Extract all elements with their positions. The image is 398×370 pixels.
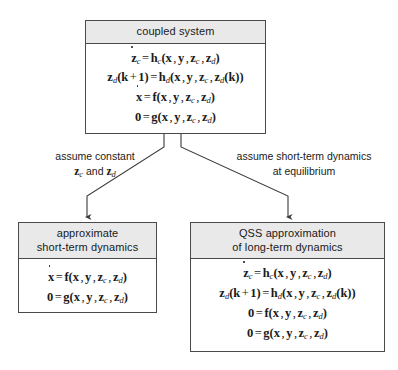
equation-zd-update: zd(k+1)=hd(x,y,zc,zd(k)) [196, 285, 379, 305]
node-qss-approximation-long-term-dynamics-body: zc=hc(x,y,zc,zd) zd(k+1)=hd(x,y,zc,zd(k)… [191, 259, 384, 351]
node-approximate-short-term-dynamics-header: approximate short-term dynamics [19, 223, 156, 259]
header-line-2: short-term dynamics [21, 241, 154, 255]
equation-g-constraint: 0=g(x,y,zc,zd) [24, 289, 151, 309]
left-branch-label-line2: zc and zd [30, 164, 160, 181]
right-branch-label: assume short-term dynamics at equilibriu… [215, 149, 393, 178]
equation-f-constraint: 0=f(x,y,zc,zd) [196, 305, 379, 325]
equation-g-constraint: 0=g(x,y,zc,zd) [91, 109, 260, 129]
header-line-2: of long-term dynamics [193, 241, 382, 255]
left-branch-label-line1: assume constant [30, 149, 160, 164]
node-coupled-system[interactable]: coupled system zc=hc(x,y,zc,zd) zd(k+1)=… [85, 20, 266, 134]
header-line-1: QSS approximation [193, 227, 382, 241]
node-qss-approximation-long-term-dynamics-header: QSS approximation of long-term dynamics [191, 223, 384, 259]
equation-x-dot: x=f(x,y,zc,zd) [24, 269, 151, 289]
node-coupled-system-header: coupled system [86, 21, 265, 44]
diagram-canvas: coupled system zc=hc(x,y,zc,zd) zd(k+1)=… [0, 0, 398, 370]
node-approximate-short-term-dynamics-body: x=f(x,y,zc,zd) 0=g(x,y,zc,zd) [19, 259, 156, 316]
node-approximate-short-term-dynamics[interactable]: approximate short-term dynamics x=f(x,y,… [18, 222, 157, 313]
equation-x-dot: x=f(x,y,zc,zd) [91, 89, 260, 109]
left-branch-label: assume constant zc and zd [30, 149, 160, 181]
node-qss-approximation-long-term-dynamics[interactable]: QSS approximation of long-term dynamics … [190, 222, 385, 352]
equation-zc-dot: zc=hc(x,y,zc,zd) [196, 265, 379, 285]
node-coupled-system-body: zc=hc(x,y,zc,zd) zd(k+1)=hd(x,y,zc,zd(k)… [86, 44, 265, 136]
header-line-1: approximate [21, 227, 154, 241]
right-branch-label-line2: at equilibrium [215, 164, 393, 179]
equation-zd-update: zd(k+1)=hd(x,y,zc,zd(k)) [91, 69, 260, 89]
right-branch-label-line1: assume short-term dynamics [215, 149, 393, 164]
equation-g-constraint: 0=g(x,y,zc,zd) [196, 325, 379, 345]
equation-zc-dot: zc=hc(x,y,zc,zd) [91, 50, 260, 70]
